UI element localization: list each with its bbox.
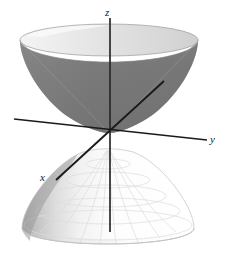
upper-nappe (20, 24, 198, 133)
hyperboloid-figure: z y x (0, 0, 228, 258)
y-axis-label: y (210, 134, 215, 145)
z-axis-label: z (105, 7, 109, 18)
x-axis-label: x (40, 172, 45, 183)
figure-canvas (0, 0, 228, 258)
lower-nappe (22, 148, 194, 244)
